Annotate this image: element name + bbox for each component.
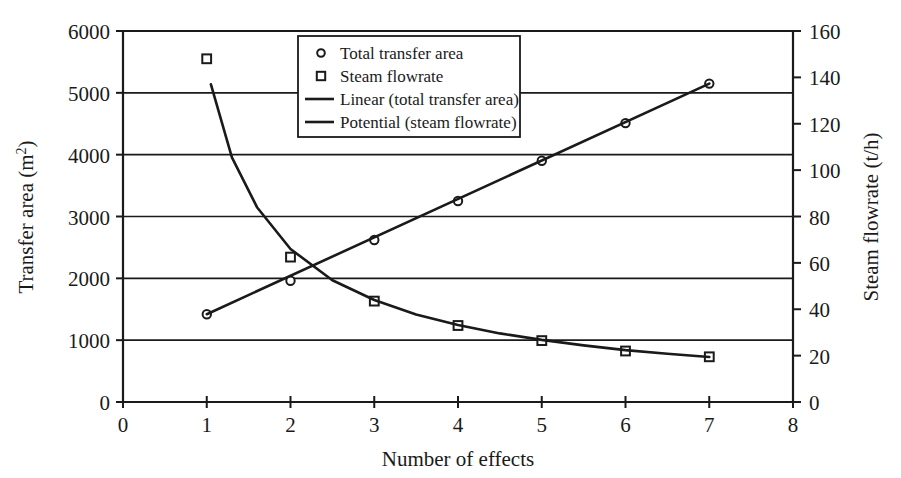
y-axis-title: Transfer area (m2) (14, 140, 38, 293)
y2-tick-label-100: 100 (809, 159, 841, 183)
x-tick-label-5: 5 (537, 413, 548, 437)
chart-container: 012345678 0100020003000400050006000 0204… (0, 0, 901, 478)
legend-label-potential-steam-flowrate: Potential (steam flowrate) (340, 113, 517, 132)
x-axis-title: Number of effects (382, 447, 534, 471)
y-tick-label-6000: 6000 (68, 20, 110, 44)
y-axis-title-text: Transfer area (m (14, 154, 38, 293)
chart-legend: Total transfer areaSteam flowrateLinear … (298, 36, 520, 137)
x-tick-label-2: 2 (285, 413, 296, 437)
y-tick-label-5000: 5000 (68, 82, 110, 106)
x-tick-label-6: 6 (620, 413, 631, 437)
x-tick-label-3: 3 (369, 413, 380, 437)
data-point-square-1 (202, 54, 211, 63)
y2-tick-label-80: 80 (809, 206, 830, 230)
y2-tick-label-20: 20 (809, 345, 830, 369)
y-tick-label-4000: 4000 (68, 144, 110, 168)
y2-tick-label-60: 60 (809, 252, 830, 276)
y2-tick-label-140: 140 (809, 66, 841, 90)
y-tick-label-3000: 3000 (68, 206, 110, 230)
y-tick-label-0: 0 (100, 391, 111, 415)
y-axis-tick-labels: 0100020003000400050006000 (68, 20, 110, 415)
y2-tick-label-160: 160 (809, 20, 841, 44)
legend-label-total-transfer-area: Total transfer area (340, 44, 464, 63)
x-tick-label-7: 7 (704, 413, 715, 437)
legend-marker-square-steam-flowrate (317, 72, 325, 80)
y2-tick-label-0: 0 (809, 391, 820, 415)
transfer-area-steam-flowrate-chart: 012345678 0100020003000400050006000 0204… (0, 0, 901, 478)
data-point-square-2 (286, 253, 295, 262)
svg-text:Transfer area (m2): Transfer area (m2) (14, 140, 38, 293)
secondary-y-axis-title: Steam flowrate (t/h) (859, 132, 883, 301)
legend-marker-circle-total-transfer-area (317, 49, 325, 57)
y2-tick-label-40: 40 (809, 298, 830, 322)
y-tick-label-1000: 1000 (68, 329, 110, 353)
x-tick-label-8: 8 (788, 413, 799, 437)
x-tick-label-0: 0 (118, 413, 129, 437)
legend-label-steam-flowrate: Steam flowrate (340, 67, 443, 86)
y-axis-title-tail: ) (14, 140, 38, 147)
y2-tick-label-120: 120 (809, 113, 841, 137)
x-axis-tick-labels: 012345678 (118, 413, 799, 437)
y-axis-title-superscript: 2 (14, 147, 29, 154)
x-tick-label-1: 1 (202, 413, 213, 437)
legend-label-linear-total-transfer-area: Linear (total transfer area) (340, 90, 519, 109)
y-tick-label-2000: 2000 (68, 267, 110, 291)
x-tick-label-4: 4 (453, 413, 464, 437)
secondary-y-axis-tick-labels: 020406080100120140160 (809, 20, 841, 415)
